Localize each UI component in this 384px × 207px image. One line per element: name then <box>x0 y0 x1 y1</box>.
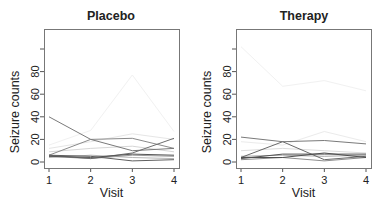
y-axis: 020406080 <box>221 49 236 165</box>
y-axis-label: Seizure counts <box>8 71 22 154</box>
y-tick-label: 0 <box>29 159 41 165</box>
x-tick-label: 1 <box>46 174 52 186</box>
series-lines <box>49 75 174 161</box>
series-line <box>241 132 366 146</box>
y-tick-label: 20 <box>29 133 41 145</box>
therapy-panel: Therapy Visit Seizure counts 1234 020406… <box>200 9 371 200</box>
y-axis: 020406080 <box>29 49 44 165</box>
x-axis: 1234 <box>238 169 369 186</box>
x-axis-label: Visit <box>292 186 316 200</box>
y-tick-label: 0 <box>221 159 233 165</box>
series-line <box>49 138 174 155</box>
figure: Placebo Visit Seizure counts 1234 020406… <box>0 0 384 207</box>
y-axis-label: Seizure counts <box>200 71 214 154</box>
x-tick-label: 2 <box>88 174 94 186</box>
series-line <box>241 47 366 91</box>
x-axis: 1234 <box>46 169 177 186</box>
x-tick-label: 1 <box>238 174 244 186</box>
x-axis-label: Visit <box>100 186 124 200</box>
plot-frame <box>237 30 372 169</box>
series-lines <box>241 47 366 161</box>
x-tick-label: 2 <box>280 174 286 186</box>
panel-title: Placebo <box>87 9 135 23</box>
x-tick-label: 4 <box>171 174 177 186</box>
x-tick-label: 3 <box>129 174 135 186</box>
y-tick-label: 60 <box>29 88 41 100</box>
series-line <box>49 75 174 145</box>
panel-title: Therapy <box>280 9 329 23</box>
x-tick-label: 4 <box>363 174 369 186</box>
y-tick-label: 80 <box>29 65 41 77</box>
y-tick-label: 40 <box>29 111 41 123</box>
y-tick-label: 60 <box>221 88 233 100</box>
y-tick-label: 80 <box>221 65 233 77</box>
y-tick-label: 20 <box>221 133 233 145</box>
placebo-panel: Placebo Visit Seizure counts 1234 020406… <box>8 9 179 200</box>
x-tick-label: 3 <box>321 174 327 186</box>
y-tick-label: 40 <box>221 111 233 123</box>
series-line <box>49 134 174 149</box>
